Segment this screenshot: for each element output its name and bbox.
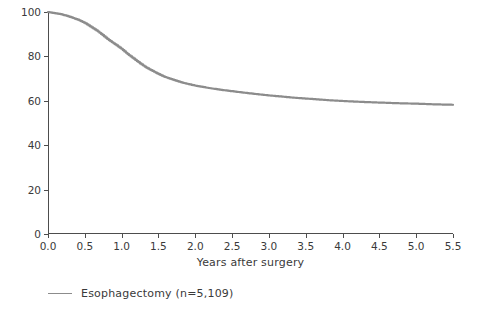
survival-curve-chart: Survival rate (%) 020406080100 0.00.51.0… xyxy=(0,0,485,318)
x-tick-label: 1.0 xyxy=(113,240,130,252)
x-tick-mark xyxy=(416,234,417,238)
x-tick-label: 2.0 xyxy=(187,240,204,252)
plot-area: 020406080100 0.00.51.01.52.02.53.03.54.0… xyxy=(48,12,453,234)
chart-legend: Esophagectomy (n=5,109) xyxy=(48,287,234,300)
legend-item-label: Esophagectomy (n=5,109) xyxy=(81,287,234,300)
x-tick-mark xyxy=(232,234,233,238)
y-tick-label: 0 xyxy=(34,228,41,240)
y-tick-label: 20 xyxy=(28,184,41,196)
x-tick-label: 3.0 xyxy=(261,240,278,252)
x-tick-mark xyxy=(48,234,49,238)
x-tick-label: 5.5 xyxy=(445,240,462,252)
survival-curve-line xyxy=(48,12,453,234)
x-tick-mark xyxy=(269,234,270,238)
x-tick-label: 2.5 xyxy=(224,240,241,252)
x-tick-mark xyxy=(379,234,380,238)
y-tick-label: 80 xyxy=(28,50,41,62)
y-tick-label: 40 xyxy=(28,139,41,151)
x-tick-label: 0.0 xyxy=(40,240,57,252)
y-tick-label: 100 xyxy=(21,6,41,18)
x-axis-title: Years after surgery xyxy=(48,256,453,269)
x-tick-mark xyxy=(453,234,454,238)
x-tick-label: 0.5 xyxy=(76,240,93,252)
x-tick-label: 3.5 xyxy=(297,240,314,252)
x-tick-mark xyxy=(158,234,159,238)
x-tick-label: 1.5 xyxy=(150,240,167,252)
x-tick-label: 4.0 xyxy=(334,240,351,252)
x-tick-mark xyxy=(195,234,196,238)
x-tick-mark xyxy=(85,234,86,238)
y-tick-label: 60 xyxy=(28,95,41,107)
legend-line-swatch xyxy=(48,293,72,294)
x-tick-mark xyxy=(343,234,344,238)
x-tick-mark xyxy=(306,234,307,238)
x-tick-label: 4.5 xyxy=(371,240,388,252)
x-tick-mark xyxy=(122,234,123,238)
x-tick-label: 5.0 xyxy=(408,240,425,252)
